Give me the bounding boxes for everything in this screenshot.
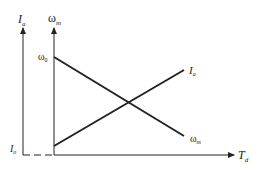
- omega-m-curve: [54, 57, 184, 136]
- ia-curve-label: Ia: [188, 64, 196, 77]
- omega-m-curve-label: ωm: [190, 133, 202, 145]
- omega-axis-label: ωm: [48, 11, 61, 27]
- omega0-label: ω0: [38, 51, 48, 63]
- ia-curve: [54, 70, 184, 146]
- ia-axis-label: Ia: [17, 12, 26, 28]
- td-axis-label: Td: [238, 148, 249, 164]
- io-label: Io: [9, 143, 16, 155]
- motor-characteristic-diagram: Ia ωm Td Io ω0 ωm Ia: [0, 0, 262, 170]
